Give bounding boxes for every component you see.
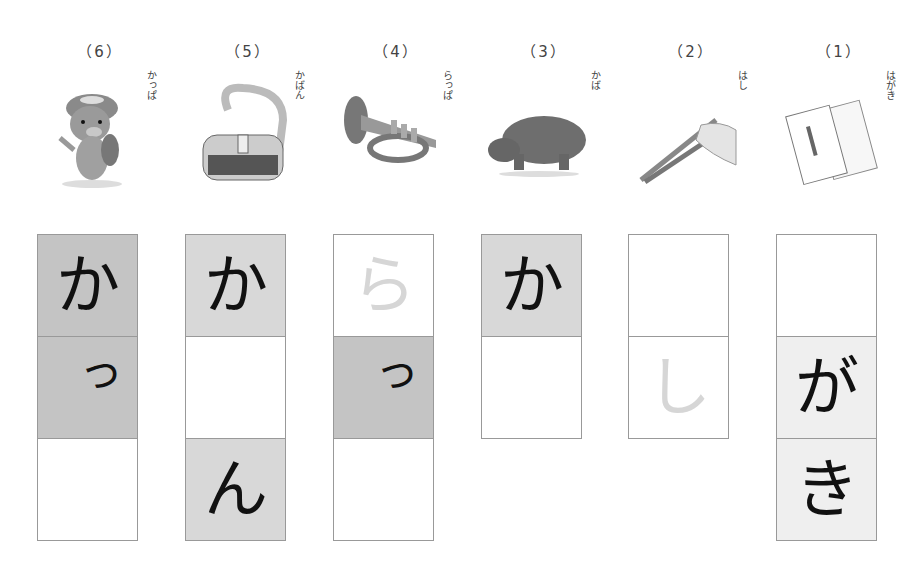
kana-cell: っ bbox=[333, 336, 434, 438]
blank-writing-cell[interactable] bbox=[37, 438, 138, 541]
kana-cell: っ bbox=[37, 336, 138, 438]
blank-writing-cell[interactable] bbox=[185, 336, 286, 438]
writing-grid: し bbox=[628, 234, 728, 439]
kana-glyph: っ bbox=[79, 337, 123, 407]
question-number: （4） bbox=[356, 40, 436, 61]
kana-glyph: か bbox=[500, 248, 564, 322]
bag-illustration bbox=[188, 80, 298, 190]
question-column: （6） かっぱ かっ bbox=[30, 0, 170, 587]
postcards-illustration bbox=[779, 80, 889, 190]
question-number: （3） bbox=[504, 40, 584, 61]
question-column: （4） らっぱ らっ bbox=[326, 0, 466, 587]
question-number: （2） bbox=[651, 40, 731, 61]
kana-cell: し bbox=[628, 336, 729, 439]
kana-glyph: ん bbox=[204, 452, 268, 526]
question-number: （1） bbox=[799, 40, 879, 61]
kana-glyph: ら bbox=[352, 248, 416, 322]
kana-glyph: か bbox=[56, 248, 120, 322]
trumpet-illustration bbox=[336, 80, 446, 190]
writing-grid: らっ bbox=[333, 234, 433, 541]
question-number: （6） bbox=[60, 40, 140, 61]
question-number: （5） bbox=[208, 40, 288, 61]
kana-cell: ん bbox=[185, 438, 286, 541]
question-column: （1） はがき がき bbox=[769, 0, 909, 587]
kana-glyph: き bbox=[795, 452, 859, 526]
kana-cell: か bbox=[37, 234, 138, 336]
writing-grid: かっ bbox=[37, 234, 137, 541]
kana-glyph: っ bbox=[375, 337, 419, 407]
kappa-illustration bbox=[40, 80, 150, 190]
blank-writing-cell[interactable] bbox=[628, 234, 729, 336]
writing-grid: かん bbox=[185, 234, 285, 541]
kana-glyph: か bbox=[204, 248, 268, 322]
blank-writing-cell[interactable] bbox=[333, 438, 434, 541]
chopsticks-illustration bbox=[631, 80, 741, 190]
kana-cell: が bbox=[776, 336, 877, 438]
blank-writing-cell[interactable] bbox=[481, 336, 582, 439]
kana-cell: か bbox=[185, 234, 286, 336]
question-column: （3） かば か bbox=[474, 0, 614, 587]
hippo-illustration bbox=[484, 80, 594, 190]
blank-writing-cell[interactable] bbox=[776, 234, 877, 336]
writing-grid: か bbox=[481, 234, 581, 439]
writing-grid: がき bbox=[776, 234, 876, 541]
kana-cell: き bbox=[776, 438, 877, 541]
question-column: （5） かばん かん bbox=[178, 0, 318, 587]
kana-glyph: が bbox=[795, 350, 859, 424]
kana-glyph: し bbox=[647, 350, 711, 424]
kana-cell: か bbox=[481, 234, 582, 336]
question-column: （2） はし し bbox=[621, 0, 761, 587]
kana-cell: ら bbox=[333, 234, 434, 336]
